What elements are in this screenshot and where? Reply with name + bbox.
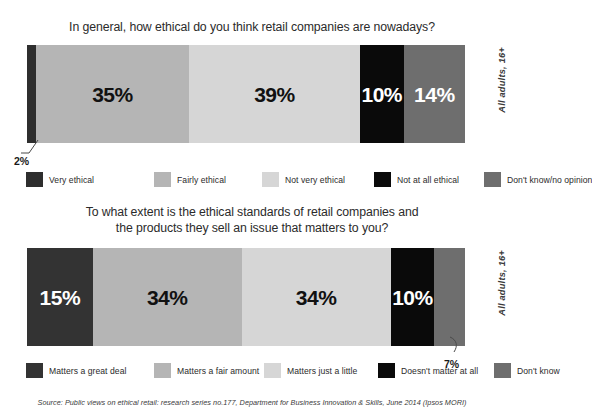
chart-1-title: In general, how ethical do you think ret… bbox=[0, 0, 504, 35]
chart-1-base-note: All adults, 16+ bbox=[497, 47, 507, 113]
chart-2-legend-item-2[interactable]: Matters just a little bbox=[264, 363, 378, 378]
chart-2-segment-matters-fair-amount[interactable]: 34% bbox=[93, 248, 242, 346]
source-note: Source: Public views on ethical retail: … bbox=[0, 398, 504, 407]
chart-2-segment-doesnt-matter-at-all[interactable]: 10% bbox=[391, 248, 435, 346]
chart-2-title-line-2: the products they sell an issue that mat… bbox=[34, 220, 470, 236]
chart-2-legend-swatch-2 bbox=[264, 363, 281, 378]
chart-1-value-label-2: 39% bbox=[254, 84, 295, 105]
chart-2-title-line-1: To what extent is the ethical standards … bbox=[34, 204, 470, 220]
chart-1-legend-item-3[interactable]: Not at all ethical bbox=[374, 172, 484, 187]
chart-1-legend-swatch-0 bbox=[26, 172, 43, 187]
chart-2-legend-label-0: Matters a great deal bbox=[49, 366, 126, 376]
chart-2-legend-swatch-4 bbox=[494, 363, 511, 378]
chart-1-segment-dont-know[interactable]: 14% bbox=[404, 45, 465, 143]
chart-2-legend: Matters a great deal Matters a fair amou… bbox=[0, 363, 504, 378]
chart-2-legend-label-4: Don't know bbox=[517, 366, 560, 376]
chart-2-title: To what extent is the ethical standards … bbox=[0, 200, 504, 236]
chart-1-stacked-bar: 2% 35% 39% 10% 14% bbox=[27, 45, 465, 143]
chart-1-legend-swatch-2 bbox=[262, 172, 279, 187]
chart-2-value-label-1: 34% bbox=[147, 287, 188, 308]
chart-2-callout-leader bbox=[444, 336, 468, 358]
chart-1-legend-item-1[interactable]: Fairly ethical bbox=[154, 172, 262, 187]
chart-2-value-label-3: 10% bbox=[392, 287, 433, 308]
chart-2-segment-matters-just-a-little[interactable]: 34% bbox=[242, 248, 391, 346]
chart-2-legend-swatch-0 bbox=[26, 363, 43, 378]
chart-2-legend-label-1: Matters a fair amount bbox=[177, 366, 259, 376]
chart-1-segment-very-ethical[interactable]: 2% bbox=[27, 45, 36, 143]
chart-1-legend-label-2: Not very ethical bbox=[285, 175, 345, 185]
chart-panel-ethical-perception: In general, how ethical do you think ret… bbox=[0, 0, 504, 200]
chart-1-legend-item-2[interactable]: Not very ethical bbox=[262, 172, 374, 187]
chart-1-legend: Very ethical Fairly ethical Not very eth… bbox=[0, 172, 504, 187]
chart-2-legend-label-2: Matters just a little bbox=[287, 366, 357, 376]
chart-1-value-label-1: 35% bbox=[92, 84, 133, 105]
chart-1-segment-not-very-ethical[interactable]: 39% bbox=[189, 45, 360, 143]
chart-2-value-label-2: 34% bbox=[296, 287, 337, 308]
chart-1-legend-swatch-3 bbox=[374, 172, 391, 187]
chart-2-legend-item-0[interactable]: Matters a great deal bbox=[26, 363, 154, 378]
chart-1-value-label-3: 10% bbox=[361, 84, 402, 105]
chart-1-legend-swatch-4 bbox=[484, 172, 501, 187]
chart-2-legend-item-4[interactable]: Don't know bbox=[494, 363, 560, 378]
chart-2-segment-dont-know[interactable]: 7% bbox=[434, 248, 465, 346]
chart-1-legend-swatch-1 bbox=[154, 172, 171, 187]
chart-2-legend-swatch-3 bbox=[378, 363, 395, 378]
chart-1-legend-item-4[interactable]: Don't know/no opinion bbox=[484, 172, 592, 187]
chart-1-segment-fairly-ethical[interactable]: 35% bbox=[36, 45, 189, 143]
chart-1-segment-not-at-all-ethical[interactable]: 10% bbox=[360, 45, 404, 143]
chart-1-legend-label-4: Don't know/no opinion bbox=[507, 175, 592, 185]
chart-panel-ethical-importance: To what extent is the ethical standards … bbox=[0, 200, 504, 390]
chart-2-legend-item-1[interactable]: Matters a fair amount bbox=[154, 363, 264, 378]
chart-1-legend-item-0[interactable]: Very ethical bbox=[26, 172, 154, 187]
chart-2-base-note: All adults, 16+ bbox=[497, 250, 507, 316]
chart-2-value-label-0: 15% bbox=[40, 287, 81, 308]
chart-2-stacked-bar: 15% 34% 34% 10% 7% bbox=[27, 248, 465, 346]
chart-2-legend-label-3: Doesn't matter at all bbox=[401, 366, 478, 376]
chart-2-segment-matters-great-deal[interactable]: 15% bbox=[27, 248, 93, 346]
chart-2-legend-item-3[interactable]: Doesn't matter at all bbox=[378, 363, 494, 378]
chart-1-legend-label-3: Not at all ethical bbox=[397, 175, 459, 185]
chart-1-legend-label-0: Very ethical bbox=[49, 175, 94, 185]
chart-1-value-label-4: 14% bbox=[414, 84, 455, 105]
chart-1-callout-2-percent: 2% bbox=[14, 155, 29, 167]
chart-2-legend-swatch-1 bbox=[154, 363, 171, 378]
chart-1-legend-label-1: Fairly ethical bbox=[177, 175, 226, 185]
